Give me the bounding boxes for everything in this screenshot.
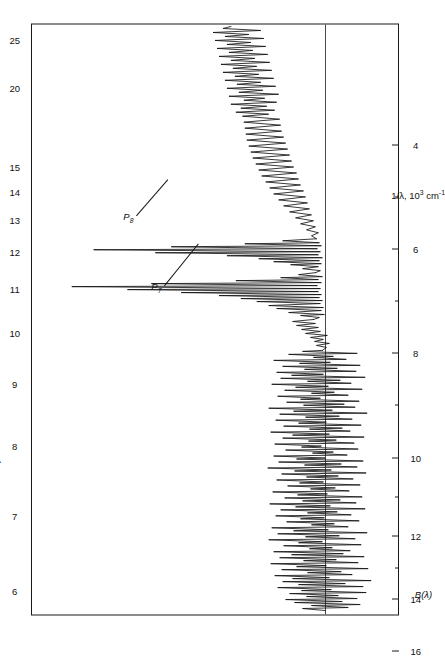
axis-tick-label: 10 — [9, 328, 20, 338]
plot-area: P7 P8 — [31, 23, 399, 615]
axis-tick — [392, 598, 399, 599]
lambda-axis-title: λ, 103 Å — [0, 452, 1, 464]
axis-tick-label: 9 — [12, 379, 17, 389]
axis-tick — [395, 300, 399, 301]
wavenumber-axis-title: 1/λ, 103 cm-1 — [391, 188, 445, 200]
intensity-axis-title: B(λ) — [415, 589, 432, 600]
axis-tick — [395, 404, 399, 405]
axis-tick-label: 8 — [12, 441, 17, 451]
axis-tick — [392, 457, 399, 458]
axis-tick-label: 8 — [413, 349, 418, 359]
axis-tick-label: 10 — [410, 453, 421, 463]
axis-tick — [392, 144, 399, 145]
axis-tick-label: 4 — [413, 140, 418, 150]
axis-tick-label: 25 — [9, 35, 20, 45]
axis-tick-label: 11 — [10, 285, 20, 295]
axis-tick-label: 6 — [413, 244, 418, 254]
axis-tick-label: 6 — [12, 587, 17, 597]
spectrum-trace — [32, 24, 398, 614]
axis-tick-label: 14 — [9, 187, 20, 197]
axis-tick — [392, 650, 399, 651]
axis-tick — [392, 248, 399, 249]
axis-tick-label: 13 — [9, 215, 20, 225]
axis-tick-label: 7 — [12, 511, 17, 521]
axis-tick-label: 12 — [9, 247, 20, 257]
axis-tick — [392, 352, 399, 353]
axis-tick-label: 15 — [9, 163, 20, 173]
axis-tick-label: 12 — [410, 532, 421, 542]
annotation-p7: P7 — [151, 280, 161, 293]
axis-tick-label: 20 — [9, 83, 20, 93]
annotation-p8: P8 — [123, 210, 133, 223]
axis-tick — [395, 567, 399, 568]
axis-tick — [392, 535, 399, 536]
axis-tick — [395, 496, 399, 497]
axis-tick-label: 16 — [410, 646, 421, 656]
